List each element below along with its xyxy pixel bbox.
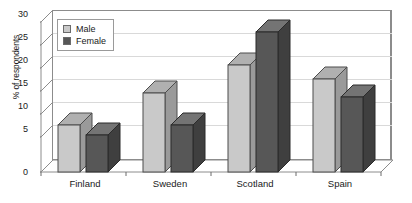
x-tick-spain: Spain — [328, 178, 352, 189]
legend-item-female: Female — [63, 35, 106, 47]
chart-legend: Male Female — [57, 19, 114, 51]
legend-label-female: Female — [76, 36, 106, 46]
gridline-20 — [52, 56, 392, 57]
legend-item-male: Male — [63, 23, 106, 35]
x-axis-tick-labels: Finland Sweden Scotland Spain — [40, 178, 400, 196]
legend-swatch-female-icon — [63, 37, 71, 45]
legend-label-male: Male — [76, 24, 96, 34]
x-tick-finland: Finland — [69, 178, 100, 189]
x-tick-scotland: Scotland — [237, 178, 274, 189]
x-tick-sweden: Sweden — [153, 178, 187, 189]
bar-sweden-female — [171, 113, 217, 172]
bar-scotland-female — [256, 20, 302, 172]
bar-spain-female — [341, 85, 387, 172]
bar-chart: % of respondents 30 25 20 15 10 5 0 — [0, 0, 412, 203]
legend-swatch-male-icon — [63, 25, 71, 33]
bar-finland-female — [86, 123, 132, 172]
